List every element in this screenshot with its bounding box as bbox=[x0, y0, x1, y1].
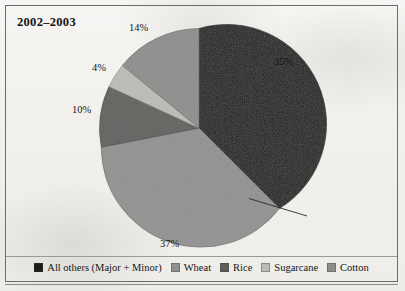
legend-item-cotton[interactable]: Cotton bbox=[327, 262, 369, 273]
legend-label-rice: Rice bbox=[233, 262, 252, 273]
legend-item-wheat[interactable]: Wheat bbox=[171, 262, 211, 273]
pie-label-wheat: 37% bbox=[160, 238, 179, 249]
legend-divider bbox=[6, 256, 397, 257]
pie-canvas bbox=[0, 0, 405, 291]
pie-label-cotton: 14% bbox=[129, 22, 148, 33]
pie-label-sugarcane: 4% bbox=[92, 62, 106, 73]
pie-chart-figure: 2002–2003 bbox=[0, 0, 405, 291]
legend-label-all-others: All others (Major + Minor) bbox=[47, 262, 161, 273]
pie-label-all-others: 35% bbox=[274, 56, 293, 67]
legend-item-all-others[interactable]: All others (Major + Minor) bbox=[34, 262, 161, 273]
legend-label-sugarcane: Sugarcane bbox=[274, 262, 318, 273]
legend-swatch-cotton bbox=[327, 263, 336, 272]
legend-item-rice[interactable]: Rice bbox=[220, 262, 252, 273]
pie-svg bbox=[0, 0, 405, 291]
pie-label-rice: 10% bbox=[72, 104, 91, 115]
legend-label-cotton: Cotton bbox=[340, 262, 369, 273]
chart-legend: All others (Major + Minor) Wheat Rice Su… bbox=[6, 262, 397, 273]
legend-label-wheat: Wheat bbox=[184, 262, 211, 273]
legend-swatch-rice bbox=[220, 263, 229, 272]
legend-item-sugarcane[interactable]: Sugarcane bbox=[261, 262, 318, 273]
legend-swatch-wheat bbox=[171, 263, 180, 272]
legend-swatch-all-others bbox=[34, 263, 43, 272]
legend-swatch-sugarcane bbox=[261, 263, 270, 272]
